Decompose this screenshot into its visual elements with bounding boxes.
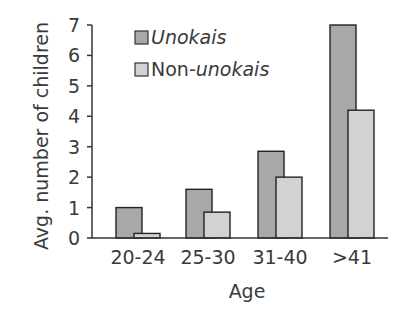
x-axis-title: Age <box>229 280 266 302</box>
y-tick-label: 6 <box>68 44 80 66</box>
y-tick-label: 2 <box>68 166 80 188</box>
y-tick-label: 5 <box>68 75 80 97</box>
y-tick-label: 0 <box>68 227 80 249</box>
bar-non-unokais <box>348 110 374 238</box>
y-tick-label: 1 <box>68 197 80 219</box>
x-tick-label: 31-40 <box>252 246 307 268</box>
y-tick-label: 7 <box>68 14 80 36</box>
bar-non-unokais <box>204 212 230 238</box>
bar-chart: 01234567 20-2425-3031-40>41 Avg. number … <box>0 0 404 332</box>
legend-label-unokais: Unokais <box>151 26 226 48</box>
x-tick-label: 20-24 <box>110 246 165 268</box>
x-tick-label: >41 <box>332 246 372 268</box>
legend: Unokais Non-unokais <box>135 26 269 80</box>
y-tick-label: 4 <box>68 105 80 127</box>
y-axis: 01234567 <box>68 14 92 249</box>
legend-swatch-unokais <box>135 31 148 44</box>
legend-swatch-non-unokais <box>135 63 148 76</box>
legend-label-italic: unokais <box>196 58 270 80</box>
x-tick-label: 25-30 <box>180 246 235 268</box>
y-tick-label: 3 <box>68 136 80 158</box>
y-axis-title: Avg. number of children <box>30 22 52 250</box>
legend-label-non-unokais: Non-unokais <box>151 58 269 80</box>
bar-non-unokais <box>276 177 302 238</box>
x-axis: 20-2425-3031-40>41 <box>92 238 388 268</box>
legend-label-plain: Non- <box>151 58 196 80</box>
bars <box>116 25 374 238</box>
